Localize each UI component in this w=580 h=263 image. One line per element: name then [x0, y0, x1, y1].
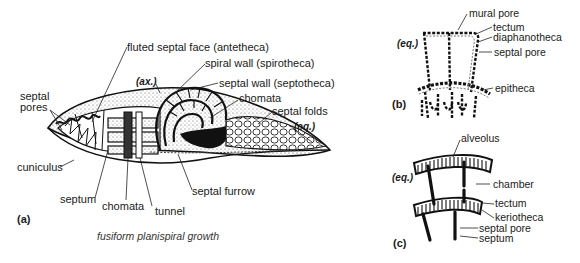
tunnel-structure — [108, 112, 158, 158]
panel-label-b: (b) — [392, 98, 406, 110]
label-equator-a: (eq.) — [294, 121, 315, 132]
label-diaphanotheca: diaphanotheca — [493, 32, 562, 43]
label-chamber: chamber — [493, 179, 534, 190]
label-septum: septum — [60, 194, 96, 205]
label-chomata-bottom: chomata — [102, 201, 144, 212]
label-alveolus: alveolus — [461, 133, 500, 144]
label-septal-folds: septal folds — [272, 106, 328, 117]
leader-lines-b — [458, 14, 493, 90]
caption-fusiform-growth: fusiform planispiral growth — [97, 230, 219, 242]
label-septum-c: septum — [479, 233, 513, 244]
label-epitheca: epitheca — [495, 83, 535, 94]
panel-b-drawing — [418, 33, 490, 118]
label-septal-pore-b: septal pore — [494, 47, 546, 58]
label-septal-pores-line2: pores — [20, 102, 48, 113]
label-cuniculus: cuniculus — [17, 162, 63, 173]
label-spiral-wall: spiral wall (spirotheca) — [205, 58, 314, 69]
label-fluted-septal-face: fluted septal face (antetheca) — [127, 42, 269, 53]
label-tectum-c: tectum — [495, 198, 527, 209]
fusiform-test-drawing — [48, 88, 330, 163]
label-septal-wall: septal wall (septotheca) — [219, 78, 335, 89]
label-septal-furrow: septal furrow — [192, 186, 255, 197]
panel-label-c: (c) — [393, 237, 406, 249]
panel-label-a: (a) — [17, 213, 30, 225]
label-axis: (ax.) — [136, 76, 157, 87]
label-equator-b: (eq.) — [397, 38, 418, 49]
label-chomata-top: chomata — [239, 93, 281, 104]
label-mural-pore: mural pore — [469, 8, 519, 19]
label-tunnel: tunnel — [155, 206, 185, 217]
label-equator-c: (eq.) — [392, 172, 413, 183]
